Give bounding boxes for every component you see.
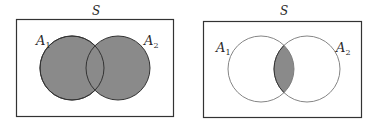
universe-label: S [280,4,288,18]
venn-diagram-union: S A1 A2 [17,4,174,117]
set-a2-circle [86,36,150,100]
venn-diagram-intersection: S A1 A2 [204,4,362,118]
universe-label: S [92,4,100,18]
